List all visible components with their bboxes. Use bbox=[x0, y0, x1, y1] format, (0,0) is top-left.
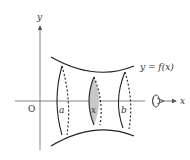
point-b-label: b bbox=[121, 105, 127, 115]
disk-at-a bbox=[57, 66, 69, 135]
curve-label: y = f(x) bbox=[139, 62, 174, 72]
lower-curve bbox=[51, 130, 134, 146]
point-x-label: x bbox=[91, 105, 96, 115]
y-axis-label: y bbox=[36, 12, 43, 22]
origin-label: O bbox=[28, 104, 35, 114]
solid-of-revolution-diagram: y x O a x b y = f(x) bbox=[0, 0, 190, 160]
disk-at-b bbox=[118, 72, 130, 129]
x-axis-label: x bbox=[180, 96, 185, 106]
point-a-label: a bbox=[59, 105, 64, 115]
